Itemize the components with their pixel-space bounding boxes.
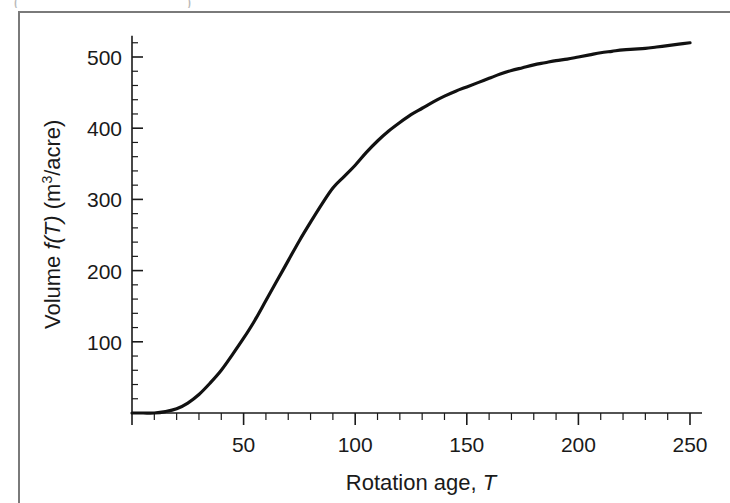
y-tick-label: 100 — [87, 331, 122, 354]
x-tick-label: 50 — [232, 433, 255, 456]
x-tick-label: 200 — [561, 433, 596, 456]
x-axis-title: Rotation age, T — [346, 470, 498, 495]
y-axis-minor-ticks — [132, 43, 138, 399]
y-axis: 100200300400500 — [87, 36, 143, 413]
x-axis-minor-ticks — [154, 413, 667, 420]
x-tick-label: 100 — [338, 433, 373, 456]
y-tick-label: 300 — [87, 188, 122, 211]
y-tick-label: 500 — [87, 46, 122, 69]
y-axis-title: Volume f(T) (m3/acre) — [39, 120, 65, 330]
x-tick-label: 150 — [449, 433, 484, 456]
y-tick-label: 400 — [87, 117, 122, 140]
chart-svg: 100200300400500 50100150200250 Rotation … — [0, 0, 730, 503]
x-tick-label: 250 — [672, 433, 707, 456]
chart-plot-area: 100200300400500 50100150200250 Rotation … — [0, 0, 730, 503]
y-axis-tick-labels: 100200300400500 — [87, 46, 122, 354]
volume-curve — [132, 43, 690, 413]
x-axis-tick-labels: 50100150200250 — [232, 433, 708, 456]
x-axis: 50100150200250 — [132, 413, 708, 456]
x-axis-major-ticks — [132, 413, 690, 425]
y-tick-label: 200 — [87, 260, 122, 283]
